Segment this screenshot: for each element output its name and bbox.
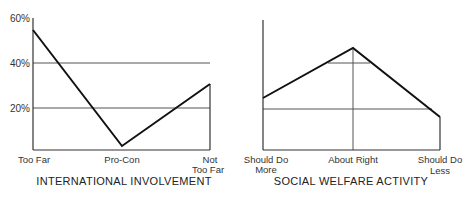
category-should-do-less-line1: Should Do bbox=[418, 154, 462, 165]
category-not-too-far-line2: Too Far bbox=[192, 164, 224, 175]
category-too-far: Too Far bbox=[18, 154, 50, 165]
data-line bbox=[263, 48, 440, 117]
chart-social-welfare-activity: Should Do More About Right Should Do Les… bbox=[244, 20, 462, 187]
y-tick-20: 20% bbox=[10, 103, 30, 114]
chart-title-right: SOCIAL WELFARE ACTIVITY bbox=[274, 175, 429, 187]
y-tick-60: 60% bbox=[10, 13, 30, 24]
category-should-do-more-line2: More bbox=[255, 164, 277, 175]
chart-international-involvement: 60% 40% 20% Too Far Pro-Con Not Too Far … bbox=[10, 13, 224, 187]
chart-canvas: 60% 40% 20% Too Far Pro-Con Not Too Far … bbox=[0, 0, 465, 199]
chart-title-left: INTERNATIONAL INVOLVEMENT bbox=[36, 175, 211, 187]
category-pro-con: Pro-Con bbox=[104, 154, 139, 165]
category-about-right: About Right bbox=[328, 154, 378, 165]
category-should-do-less-line2: Less bbox=[430, 165, 450, 176]
y-tick-40: 40% bbox=[10, 58, 30, 69]
data-line bbox=[33, 30, 210, 146]
